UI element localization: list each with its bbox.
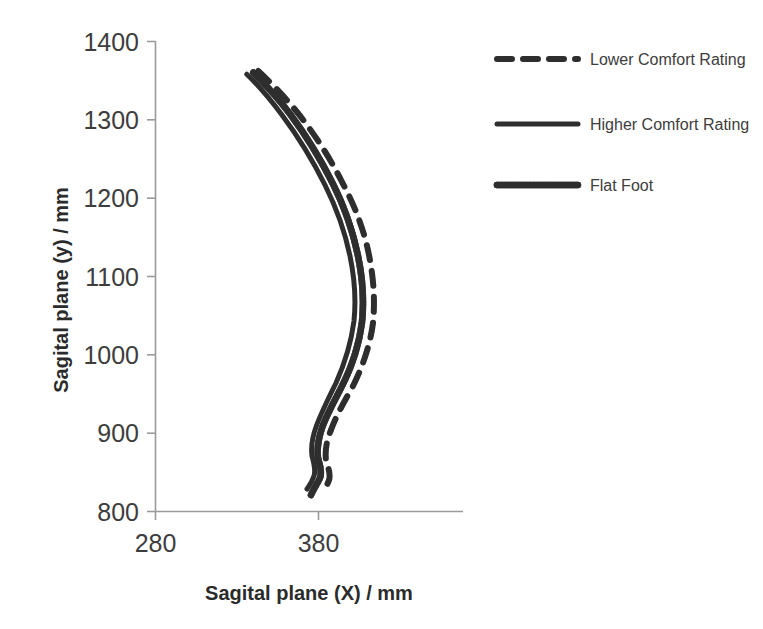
chart-figure: 1400 1300 1200 1100 1000 900 800 280 380… — [0, 0, 763, 629]
y-axis-title: Sagital plane (y) / mm — [50, 187, 72, 393]
legend-label-lower-comfort-rating: Lower Comfort Rating — [590, 51, 746, 68]
chart-legend: Lower Comfort Rating Higher Comfort Rati… — [497, 51, 749, 194]
y-axis-ticks — [147, 42, 156, 512]
legend-item-lower-comfort-rating[interactable]: Lower Comfort Rating — [497, 51, 746, 68]
flat-foot-line-beads — [253, 73, 363, 495]
y-tick-label-900: 900 — [97, 419, 139, 447]
y-tick-label-1200: 1200 — [83, 184, 139, 212]
y-tick-label-1300: 1300 — [83, 106, 139, 134]
x-axis-title: Sagital plane (X) / mm — [205, 582, 413, 604]
plot-series-group — [247, 71, 374, 495]
x-tick-label-280: 280 — [135, 529, 177, 557]
x-tick-label-380: 380 — [298, 529, 340, 557]
chart-canvas: 1400 1300 1200 1100 1000 900 800 280 380… — [0, 0, 763, 629]
legend-label-higher-comfort-rating: Higher Comfort Rating — [590, 116, 749, 133]
y-tick-label-1000: 1000 — [83, 341, 139, 369]
x-axis-ticks — [156, 512, 319, 521]
higher-comfort-line — [247, 74, 355, 489]
y-tick-label-1100: 1100 — [85, 263, 139, 291]
y-tick-label-1400: 1400 — [83, 28, 139, 56]
y-tick-label-800: 800 — [97, 498, 139, 526]
legend-label-flat-foot: Flat Foot — [590, 177, 654, 194]
legend-item-flat-foot[interactable]: Flat Foot — [497, 177, 654, 194]
legend-item-higher-comfort-rating[interactable]: Higher Comfort Rating — [497, 116, 749, 133]
